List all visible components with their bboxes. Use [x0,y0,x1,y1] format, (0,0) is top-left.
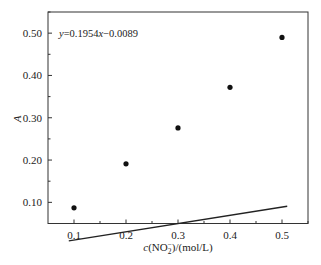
data-point [123,161,128,166]
data-points [71,35,284,211]
x-label-open: (NO [148,241,168,254]
data-point [175,125,180,130]
data-point [227,85,232,90]
calibration-chart: 0.100.200.300.400.50 0.10.20.30.40.5 y=0… [0,0,321,265]
x-tick-label: 0.5 [275,229,289,241]
x-tick-label: 0.3 [171,229,185,241]
equation-annotation: y=0.1954x−0.0089 [58,28,138,39]
x-tick-label: 0.1 [67,229,81,241]
plot-frame [48,12,308,224]
x-tick-label: 0.2 [119,229,133,241]
y-tick-label: 0.10 [23,196,43,208]
y-tick-label: 0.30 [23,112,43,124]
y-tick-label: 0.50 [23,27,43,39]
x-label-close: )/(mol/L) [172,241,213,254]
y-tick-label: 0.20 [23,154,43,166]
x-tick-label: 0.4 [223,229,237,241]
data-point [71,205,76,210]
x-axis-label: c(NO2−)/(mol/L) [143,240,213,256]
data-point [279,35,284,40]
eq-slope: =0.1954 [64,28,100,39]
y-axis-label: A [11,115,23,123]
eq-intercept: −0.0089 [103,28,138,39]
y-tick-label: 0.40 [23,69,43,81]
